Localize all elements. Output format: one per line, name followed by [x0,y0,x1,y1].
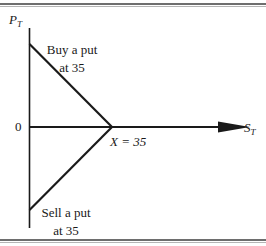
x-axis-label: ST [244,120,256,140]
y-axis-label: PT [9,12,22,32]
sell-put-line [30,127,113,210]
buy-put-label-line1: Buy a put [44,42,100,57]
sell-put-label: Sell a put at 35 [38,205,94,238]
buy-put-label: Buy a put at 35 [44,42,100,75]
buy-put-label-line2: at 35 [44,60,100,75]
sell-put-label-line1: Sell a put [38,205,94,220]
frame-bottom-border [0,239,266,241]
strike-label: X = 35 [110,134,146,149]
origin-label: 0 [15,119,22,134]
frame-bottom-border-inner [0,242,266,243]
sell-put-label-line2: at 35 [38,223,94,238]
